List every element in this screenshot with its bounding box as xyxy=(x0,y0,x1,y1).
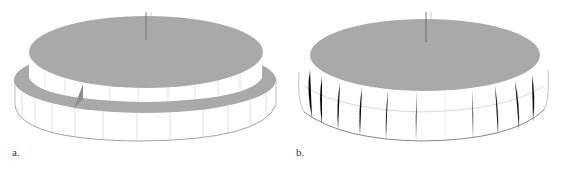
top-face xyxy=(310,19,540,91)
panel-label-a: a. xyxy=(12,146,20,158)
panel-b: b. xyxy=(282,0,564,171)
panel-label-b: b. xyxy=(296,146,304,158)
beveled-disc-diagram xyxy=(282,0,564,171)
stepped-disc-diagram xyxy=(0,0,282,171)
panel-a: a. xyxy=(0,0,282,171)
